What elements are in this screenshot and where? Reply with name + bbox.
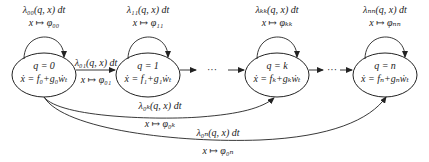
edge-q0-qn-rate: λ₀ₙ(q, x) dt	[196, 127, 239, 138]
self-loop-qk	[257, 37, 297, 59]
self-loop-qn	[365, 37, 405, 59]
self-rate-qk: λₖₖ(q, x) dt	[255, 4, 298, 15]
node-q1-dynamics: ẋ = f₁+g₁ẇₜ	[125, 73, 172, 85]
self-map-q0: x ↦ φ₀₀	[29, 17, 59, 28]
self-rate-qn: λₙₙ(q, x) dt	[363, 4, 407, 15]
node-q0-dynamics: ẋ = f₀+g₀ẇₜ	[21, 73, 68, 85]
node-qn-state: q = n	[374, 60, 396, 72]
ellipsis-2: ···	[327, 64, 337, 75]
node-q1-state: q = 1	[137, 60, 159, 72]
self-loop-q0	[24, 37, 64, 59]
edge-q0-q1-map: x ↦ φ₀₁	[81, 74, 111, 85]
node-qk-dynamics: ẋ = fₖ+gₖẇₜ	[253, 73, 300, 85]
edge-q0-qk-rate: λ₀ₖ(q, x) dt	[139, 100, 182, 111]
self-loop-q1	[128, 37, 168, 59]
edge-q0-qn-map: x ↦ φ₀ₙ	[203, 145, 234, 156]
hybrid-system-diagram: λ₀₀(q, x) dt x ↦ φ₀₀ λ₁₁(q, x) dt x ↦ φ₁…	[0, 0, 429, 162]
ellipsis-1: ···	[207, 64, 217, 75]
self-rate-q0: λ₀₀(q, x) dt	[23, 4, 66, 15]
self-map-qn: x ↦ φₙₙ	[369, 17, 400, 28]
edge-q0-qk-map: x ↦ φ₀ₖ	[145, 118, 175, 129]
node-q0-state: q = 0	[33, 60, 55, 72]
node-qn-dynamics: ẋ = fₙ+gₙẇₜ	[361, 73, 409, 85]
edge-q0-q1-rate: λ₀₁(q, x) dt	[75, 57, 118, 68]
node-qk-state: q = k	[266, 60, 287, 72]
self-map-q1: x ↦ φ₁₁	[133, 17, 163, 28]
self-rate-q1: λ₁₁(q, x) dt	[127, 4, 170, 15]
self-map-qk: x ↦ φₖₖ	[262, 17, 293, 28]
